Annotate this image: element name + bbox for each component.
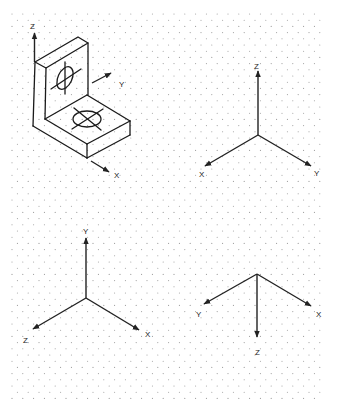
vertical-hole-centerline-h [51,69,81,89]
triad2-right-label: X [145,330,151,339]
isometric-dot-grid [11,13,320,399]
object-y-label: Y [119,80,125,89]
isometric-worksheet: Z Y X Z X [0,0,337,412]
triad3-down-label: Z [255,348,260,357]
object-x-label: X [114,171,120,180]
triad-bottom-right: Z Y X [196,274,322,357]
triad3-right-label: X [316,310,322,319]
triad-top-right: Z X Y [199,62,320,179]
triad-bottom-left: Y Z X [23,227,151,345]
object-x-axis-arrow [91,161,109,172]
triad2-right-arrow [86,298,139,330]
triad1-up-label: Z [254,62,259,71]
triad3-right-arrow [257,274,311,306]
triad1-right-arrow [258,135,311,166]
triad3-left-label: Y [196,310,202,319]
upright-top-face [35,37,88,68]
triad1-left-label: X [199,170,205,179]
triad3-left-arrow [204,274,257,304]
triad2-left-arrow [33,298,86,329]
object-z-label: Z [30,22,35,31]
triad1-right-label: Y [314,169,320,178]
triad2-left-label: Z [23,336,28,345]
object-y-axis-arrow [92,73,111,83]
triad2-up-label: Y [83,227,89,236]
